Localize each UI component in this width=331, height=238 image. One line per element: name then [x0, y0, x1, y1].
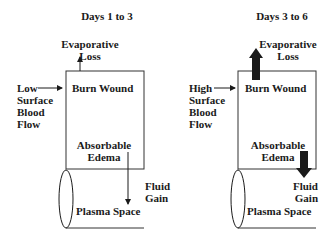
burn-wound-label: Burn Wound — [72, 82, 133, 94]
evaporative-loss-label: Evaporative Loss — [248, 38, 328, 62]
plasma-space-label: Plasma Space — [76, 205, 140, 217]
plasma-space-label: Plasma Space — [247, 205, 311, 217]
blood-flow-label: Low Surface Blood Flow — [17, 82, 53, 130]
plasma-lens-shape — [59, 170, 73, 228]
absorbable-edema-label: Absorbable Edema — [72, 139, 136, 163]
absorbable-edema-label: Absorbable Edema — [246, 139, 310, 163]
blood-flow-label: High Surface Blood Flow — [189, 82, 225, 130]
panel-title: Days 3 to 6 — [245, 10, 319, 22]
evaporative-loss-label: Evaporative Loss — [50, 38, 130, 62]
burn-wound-label: Burn Wound — [245, 82, 306, 94]
fluid-gain-label: Fluid Gain — [145, 180, 170, 204]
fluid-gain-label: Fluid Gain — [286, 180, 318, 204]
plasma-lens-shape — [231, 170, 245, 228]
panel-title: Days 1 to 3 — [70, 10, 144, 22]
